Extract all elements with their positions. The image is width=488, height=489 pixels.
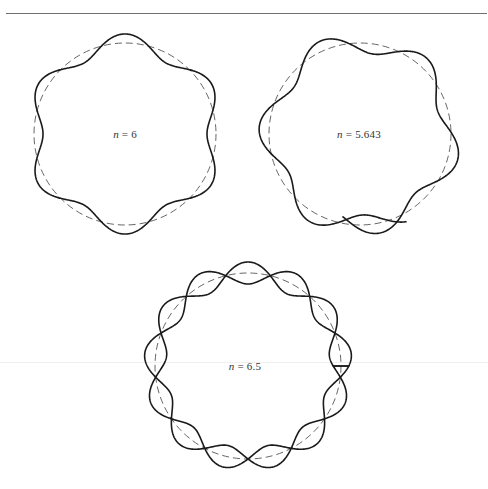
label-n65: n = 6.5 xyxy=(229,360,261,372)
standing-wave-diagrams xyxy=(0,0,488,489)
label-value: 6.5 xyxy=(247,360,261,372)
label-equals: = xyxy=(119,128,131,140)
label-equals: = xyxy=(343,128,355,140)
label-n6: n = 6 xyxy=(113,128,137,140)
label-value: 5.643 xyxy=(355,128,381,140)
label-equals: = xyxy=(235,360,247,372)
label-value: 6 xyxy=(131,128,137,140)
label-n5643: n = 5.643 xyxy=(337,128,381,140)
